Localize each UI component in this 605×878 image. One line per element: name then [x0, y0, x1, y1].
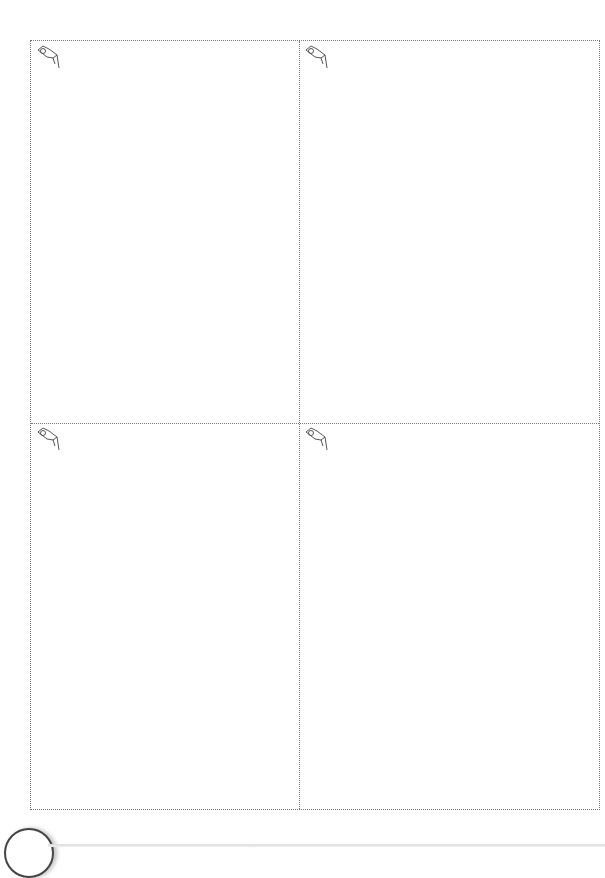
- panel-bottom-left: [31, 423, 299, 809]
- drawing-hand-icon: [35, 426, 61, 452]
- panel-top-right: [299, 41, 599, 423]
- page-number-circle: [4, 828, 54, 878]
- footer-bar: [48, 844, 605, 847]
- panel-bottom-right: [299, 423, 599, 809]
- drawing-worksheet-grid: [30, 40, 600, 810]
- drawing-hand-icon: [35, 44, 61, 70]
- drawing-hand-icon: [303, 426, 329, 452]
- panel-top-left: [31, 41, 299, 423]
- drawing-hand-icon: [303, 44, 329, 70]
